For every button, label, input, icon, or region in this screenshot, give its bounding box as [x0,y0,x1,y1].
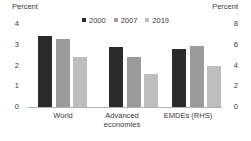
right-tick-0: 0 [224,102,238,111]
legend-item-2007: 2007 [114,16,138,25]
bar-2007-emdes-rhs- [190,46,204,107]
bar-2019-advanced-economies [144,74,158,107]
legend-item-2000: 2000 [82,16,106,25]
category-label-advanced-economies: Advanced economies [94,112,150,129]
category-label-emdes-rhs-: EMDEs (RHS) [160,112,216,121]
left-tick-4: 4 [5,19,19,28]
right-tick-2: 2 [224,81,238,90]
bar-2007-advanced-economies [127,57,141,107]
bar-2019-world [73,57,87,107]
legend-label-2019: 2019 [152,16,169,25]
right-axis-title: Percent [212,2,238,11]
bar-2019-emdes-rhs- [207,66,221,108]
left-tick-0: 0 [5,102,19,111]
legend-swatch-2019-icon [145,18,149,22]
left-axis-title: Percent [12,2,38,11]
bar-chart: Percent Percent 2000 2007 2019 43210 864… [0,0,251,141]
left-tick-2: 2 [5,61,19,70]
right-tick-8: 8 [224,19,238,28]
legend-swatch-2007-icon [114,18,118,22]
right-tick-6: 6 [224,40,238,49]
legend-swatch-2000-icon [82,18,86,22]
bar-2000-emdes-rhs- [172,49,186,107]
left-tick-1: 1 [5,81,19,90]
x-axis-line [28,107,222,108]
right-tick-4: 4 [224,61,238,70]
legend-item-2019: 2019 [145,16,169,25]
bar-2000-world [38,36,52,107]
bar-2007-world [56,39,70,107]
bar-2000-advanced-economies [109,47,123,107]
legend-label-2000: 2000 [89,16,106,25]
left-tick-3: 3 [5,40,19,49]
legend: 2000 2007 2019 [0,15,251,25]
category-label-world: World [35,112,91,121]
legend-label-2007: 2007 [121,16,138,25]
